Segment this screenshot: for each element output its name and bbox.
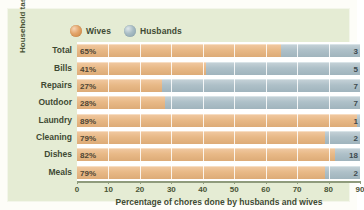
bar-segment-husbands[interactable]: 5 (206, 62, 360, 75)
bar-segment-wives[interactable]: 82% (77, 148, 335, 161)
bar-value-wives: 89% (80, 115, 96, 128)
x-axis-tick (203, 181, 204, 184)
y-axis-label-dishes: Dishes (15, 148, 77, 161)
legend-label-wives: Wives (86, 26, 111, 36)
x-axis-tick (266, 181, 267, 184)
bar-row[interactable]: 82%18 (77, 148, 360, 161)
bar-value-wives: 79% (80, 167, 96, 180)
bar-segment-husbands[interactable]: 2 (325, 166, 360, 179)
bar-row[interactable]: 79%2 (77, 131, 360, 144)
bar-value-husbands: 18 (349, 149, 358, 162)
chart-legend: Wives Husbands (70, 23, 250, 38)
bar-value-husbands: 2 (354, 132, 358, 145)
bar-value-wives: 28% (80, 97, 96, 110)
legend-label-husbands: Husbands (140, 26, 182, 36)
x-axis-tick-label: 0 (75, 185, 79, 194)
bar-value-wives: 82% (80, 149, 96, 162)
y-axis-tick-labels: TotalBillsRepairsOutdoorLaundryCleaningD… (8, 42, 77, 181)
bar-value-husbands: 2 (354, 167, 358, 180)
x-axis-tick (77, 181, 78, 184)
legend-item-husbands[interactable]: Husbands (124, 25, 182, 37)
bar-value-husbands: 5 (354, 63, 358, 76)
bar-value-wives: 27% (80, 80, 96, 93)
bar-segment-wives[interactable]: 27% (77, 79, 162, 92)
legend-item-wives[interactable]: Wives (70, 25, 111, 37)
bar-segment-wives[interactable]: 79% (77, 166, 325, 179)
bar-row[interactable]: 89%1 (77, 114, 360, 127)
sphere-icon-husbands (124, 25, 136, 37)
bar-segment-wives[interactable]: 28% (77, 96, 165, 109)
x-axis-tick-label: 40 (198, 185, 207, 194)
bar-value-husbands: 7 (354, 97, 358, 110)
x-axis-line: 0102030405060708090 (77, 181, 361, 183)
bar-row[interactable]: 28%7 (77, 96, 360, 109)
bar-segment-husbands[interactable]: 18 (335, 148, 360, 161)
x-axis-tick-label: 50 (230, 185, 239, 194)
bar-segment-husbands[interactable]: 1 (357, 114, 360, 127)
x-axis-tick (360, 181, 361, 184)
x-axis-tick-label: 20 (135, 185, 144, 194)
bar-value-wives: 65% (80, 45, 96, 58)
bar-row[interactable]: 41%5 (77, 62, 360, 75)
bar-row[interactable]: 65%3 (77, 44, 360, 57)
bar-segment-wives[interactable]: 41% (77, 62, 206, 75)
bar-value-husbands: 7 (354, 80, 358, 93)
bar-segment-husbands[interactable]: 2 (325, 131, 360, 144)
x-axis-tick (140, 181, 141, 184)
y-axis-label-bills: Bills (15, 62, 77, 75)
x-axis-tick-label: 70 (293, 185, 302, 194)
y-axis-label-repairs: Repairs (15, 79, 77, 92)
x-axis-tick-label: 90 (356, 185, 364, 194)
x-axis-tick (171, 181, 172, 184)
x-axis-tick-label: 60 (261, 185, 270, 194)
x-axis-tick-label: 10 (104, 185, 113, 194)
x-axis-tick (297, 181, 298, 184)
bar-segment-wives[interactable]: 79% (77, 131, 325, 144)
bar-segment-wives[interactable]: 65% (77, 44, 281, 57)
bar-value-husbands: 3 (354, 45, 358, 58)
bar-segment-wives[interactable]: 89% (77, 114, 357, 127)
bar-segment-husbands[interactable]: 7 (162, 79, 360, 92)
x-axis-tick (234, 181, 235, 184)
x-axis-tick-label: 30 (167, 185, 176, 194)
bar-segment-husbands[interactable]: 7 (165, 96, 360, 109)
x-axis-tick (329, 181, 330, 184)
x-axis-tick-label: 80 (324, 185, 333, 194)
x-axis-tick (108, 181, 109, 184)
bar-value-wives: 41% (80, 63, 96, 76)
bar-segment-husbands[interactable]: 3 (281, 44, 360, 57)
y-axis-label-total: Total (15, 44, 77, 57)
x-axis-title: Percentage of chores done by husbands an… (77, 197, 361, 207)
bar-row[interactable]: 79%2 (77, 166, 360, 179)
sphere-icon-wives (70, 25, 82, 37)
y-axis-label-outdoor: Outdoor (15, 96, 77, 109)
gridline (360, 42, 361, 181)
bar-value-husbands: 1 (354, 115, 358, 128)
y-axis-label-meals: Meals (15, 166, 77, 179)
chart-card: Wives Husbands Household tasks TotalBill… (8, 9, 349, 201)
bar-value-wives: 79% (80, 132, 96, 145)
y-axis-label-laundry: Laundry (15, 114, 77, 127)
y-axis-label-cleaning: Cleaning (15, 131, 77, 144)
plot-area: 65%341%527%728%789%179%282%1879%2 (77, 42, 360, 181)
bar-row[interactable]: 27%7 (77, 79, 360, 92)
